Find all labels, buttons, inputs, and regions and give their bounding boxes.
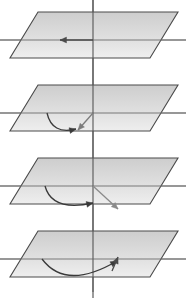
panel-stage-2 — [0, 73, 186, 146]
panels-root — [0, 0, 186, 298]
plane-parallelogram — [10, 231, 178, 277]
plane-parallelogram — [10, 85, 178, 131]
panel-stage-4 — [0, 219, 186, 292]
figure-canvas — [0, 0, 186, 298]
plane-parallelogram — [10, 12, 178, 58]
rotation-sequence-figure: Rotation of a vector in a plane — four-s… — [0, 0, 186, 298]
panel-stage-1 — [0, 0, 186, 73]
panel-stage-3 — [0, 146, 186, 219]
plane-parallelogram — [10, 158, 178, 204]
